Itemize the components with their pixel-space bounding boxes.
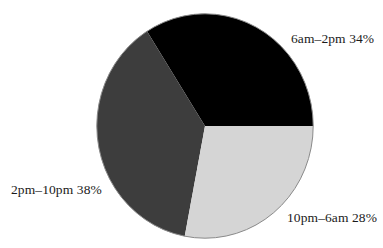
pie-label-6am-2pm: 6am–2pm 34% [291, 32, 374, 46]
pie-chart-figure: 6am–2pm 34% 2pm–10pm 38% 10pm–6am 28% [0, 0, 383, 248]
pie-svg [96, 13, 314, 239]
pie-chart-graphic [96, 13, 314, 239]
pie-label-2pm-10pm: 2pm–10pm 38% [11, 183, 102, 197]
pie-slices [97, 14, 313, 238]
pie-label-10pm-6am: 10pm–6am 28% [287, 211, 377, 225]
